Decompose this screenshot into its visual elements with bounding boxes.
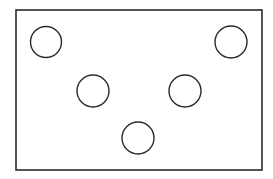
diagram-frame — [16, 10, 262, 170]
circle-middle-left — [77, 75, 109, 107]
circle-top-left — [31, 27, 62, 58]
circle-group — [31, 26, 248, 154]
diagram-canvas — [0, 0, 273, 179]
circle-top-right — [215, 26, 247, 58]
circle-bottom-center — [122, 122, 154, 154]
circle-middle-right — [169, 75, 201, 107]
